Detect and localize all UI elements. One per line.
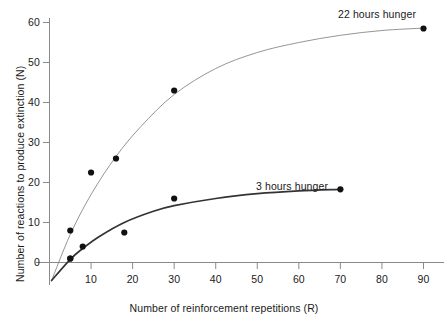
y-axis-tick-label: 60 xyxy=(10,16,40,28)
data-point-marker xyxy=(121,229,127,235)
x-axis-title: Number of reinforcement repetitions (R) xyxy=(0,302,448,314)
series-curve xyxy=(52,28,424,280)
data-point-marker xyxy=(80,243,86,249)
x-axis-tick-label: 80 xyxy=(367,273,397,285)
data-point-marker xyxy=(420,25,426,31)
x-axis-tick-label: 40 xyxy=(201,273,231,285)
data-point-marker xyxy=(67,255,73,261)
x-axis-tick-label: 30 xyxy=(159,273,189,285)
x-axis-ticks xyxy=(91,263,423,270)
series-label-22-hours-hunger: 22 hours hunger xyxy=(338,8,416,20)
data-point-marker xyxy=(337,186,343,192)
x-axis-tick-label: 20 xyxy=(118,273,148,285)
data-point-marker xyxy=(67,227,73,233)
x-axis-tick-label: 10 xyxy=(76,273,106,285)
data-point-marker xyxy=(171,195,177,201)
x-axis-tick-label: 90 xyxy=(409,273,439,285)
data-point-marker xyxy=(171,87,177,93)
x-axis-tick-label: 60 xyxy=(284,273,314,285)
chart-figure: 0102030405060 102030405060708090 Number … xyxy=(0,0,448,326)
y-axis-title: Number of reactions to produce extinctio… xyxy=(14,66,26,282)
y-axis-ticks xyxy=(43,23,50,263)
x-axis-tick-label: 50 xyxy=(242,273,272,285)
series-curve xyxy=(52,189,341,280)
series-markers xyxy=(67,25,426,261)
data-point-marker xyxy=(113,155,119,161)
series-label-3-hours-hunger: 3 hours hunger xyxy=(256,180,328,192)
data-point-marker xyxy=(88,169,94,175)
series-curves xyxy=(52,28,424,280)
x-axis-tick-label: 70 xyxy=(325,273,355,285)
